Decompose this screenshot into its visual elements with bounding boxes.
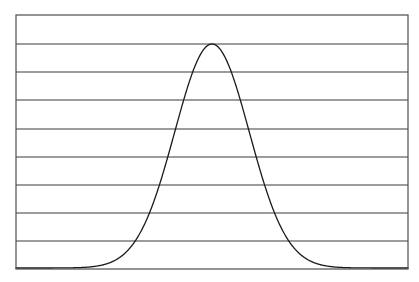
plot-area-background bbox=[16, 15, 408, 269]
figure-root bbox=[0, 0, 419, 282]
bell-curve-chart bbox=[0, 0, 419, 282]
